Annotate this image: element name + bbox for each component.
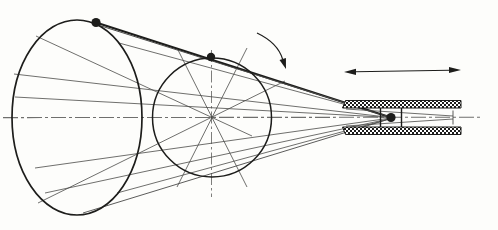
rim-point-section-dot <box>207 53 215 61</box>
rim-point-base-dot <box>91 18 100 27</box>
rotation-curved-arrow-head-icon <box>280 58 287 69</box>
section-diameter-plus24 <box>38 81 285 203</box>
sleeve-top-wall-hatched <box>343 101 462 109</box>
socket-taper-upper <box>346 109 453 116</box>
axial-slide-double-arrow-shaft <box>355 70 450 72</box>
generator-lower-1 <box>35 118 391 168</box>
generator-upper-1 <box>14 74 391 118</box>
axial-slide-double-arrow-left-head-icon <box>344 69 356 75</box>
sleeve-bottom-wall-hatched <box>343 127 462 135</box>
figure-canvas <box>0 0 498 230</box>
axial-slide-double-arrow-right-head-icon <box>449 67 461 73</box>
socket-taper-lower <box>346 119 453 126</box>
rotation-curved-arrow-shaft <box>257 33 283 60</box>
cone-pivot-sleeve-diagram <box>0 0 498 230</box>
apex-pivot-dot <box>386 113 395 122</box>
generator-top-companion <box>98 25 347 104</box>
section-diameter-minus24 <box>36 36 252 136</box>
